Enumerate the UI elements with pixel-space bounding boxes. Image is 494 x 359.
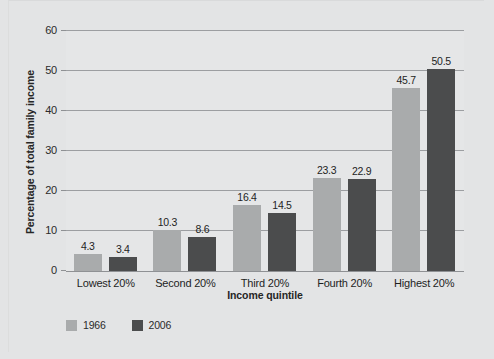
bar-group: 45.750.5Highest 20% (384, 31, 464, 271)
legend-swatch (132, 320, 143, 331)
bar[interactable]: 8.6 (188, 237, 216, 271)
x-axis-tick-label: Lowest 20% (77, 277, 135, 289)
bar[interactable]: 22.9 (348, 179, 376, 271)
bar[interactable]: 45.7 (392, 88, 420, 271)
y-axis-tick-label: 40 (45, 104, 57, 116)
bar-group: 23.322.9Fourth 20% (305, 31, 385, 271)
legend-swatch (66, 320, 77, 331)
y-axis-tick-label: 20 (45, 184, 57, 196)
bar-value-label: 50.5 (432, 55, 451, 67)
bar-group: 4.33.4Lowest 20% (66, 31, 146, 271)
bar[interactable]: 3.4 (109, 257, 137, 271)
bar[interactable]: 23.3 (313, 178, 341, 271)
bar[interactable]: 16.4 (233, 205, 261, 271)
legend-label: 1966 (83, 319, 106, 331)
bar-value-label: 14.5 (272, 199, 291, 211)
bar[interactable]: 14.5 (268, 213, 296, 271)
bar-groups: 4.33.4Lowest 20%10.38.6Second 20%16.414.… (66, 31, 464, 271)
bar-group: 10.38.6Second 20% (146, 31, 226, 271)
x-axis-tick-label: Highest 20% (394, 277, 454, 289)
y-axis-tick-label: 60 (45, 24, 57, 36)
bar[interactable]: 50.5 (427, 69, 455, 271)
y-axis-tick-label: 10 (45, 224, 57, 236)
legend-item[interactable]: 1966 (66, 319, 106, 331)
x-axis-tick-label: Third 20% (241, 277, 289, 289)
bar[interactable]: 4.3 (74, 254, 102, 271)
y-axis-tick-label: 50 (45, 64, 57, 76)
bar-value-label: 8.6 (196, 223, 210, 235)
bar-value-label: 4.3 (81, 240, 95, 252)
y-axis-tick-label: 0 (51, 264, 57, 276)
bar-value-label: 16.4 (237, 191, 256, 203)
plot-area: 0102030405060 4.33.4Lowest 20%10.38.6Sec… (66, 31, 464, 272)
legend-label: 2006 (149, 319, 172, 331)
x-axis-tick-label: Second 20% (155, 277, 215, 289)
bar-value-label: 45.7 (397, 74, 416, 86)
bar-value-label: 10.3 (158, 216, 177, 228)
y-axis-title: Percentage of total family income (23, 31, 37, 272)
bar-value-label: 22.9 (352, 165, 371, 177)
bar[interactable]: 10.3 (153, 230, 181, 271)
chart-legend: 19662006 (66, 319, 171, 331)
x-axis-title: Income quintile (66, 289, 464, 301)
bar-group: 16.414.5Third 20% (225, 31, 305, 271)
y-axis-title-text: Percentage of total family income (24, 69, 36, 233)
x-axis-tick-label: Fourth 20% (317, 277, 372, 289)
legend-item[interactable]: 2006 (132, 319, 172, 331)
bar-value-label: 23.3 (317, 164, 336, 176)
chart-figure: Percentage of total family income 010203… (0, 0, 494, 359)
chart-figure-inner: Percentage of total family income 010203… (8, 0, 484, 352)
bar-value-label: 3.4 (116, 243, 130, 255)
y-axis-tick-label: 30 (45, 144, 57, 156)
